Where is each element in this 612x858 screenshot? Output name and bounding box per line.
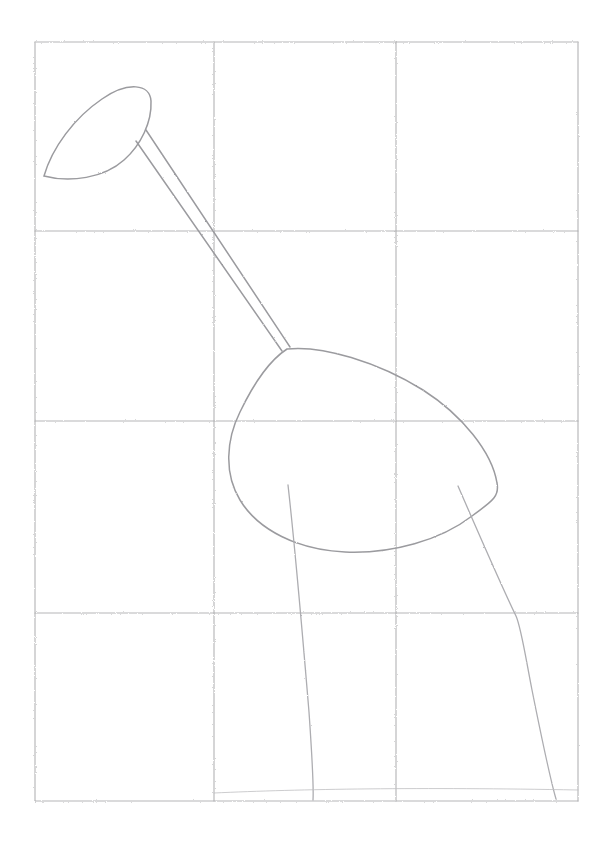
bird-neck-upper-line — [146, 130, 290, 347]
bird-neck-lower-line — [136, 141, 282, 351]
bird-front-leg — [288, 485, 313, 800]
bird-head-shape — [44, 87, 151, 179]
sketch-artwork — [0, 0, 612, 858]
sketch-canvas — [0, 0, 612, 858]
bird-body-shape — [229, 348, 498, 552]
bird-rear-leg — [458, 486, 556, 799]
bird-sketch — [44, 87, 556, 800]
